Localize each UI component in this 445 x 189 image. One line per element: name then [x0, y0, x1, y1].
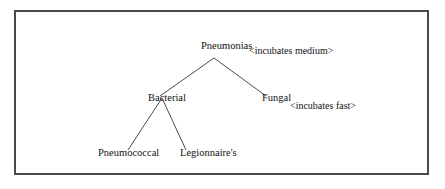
edge-pneumonias-bacterial	[160, 58, 214, 96]
node-pneumococcal: Pneumococcal	[98, 147, 159, 159]
edge-pneumonias-fungal	[214, 58, 266, 96]
edge-bacterial-legionnaires	[162, 98, 186, 150]
edge-bacterial-pneumococcal	[128, 98, 162, 150]
node-bacterial: Bacterial	[148, 92, 186, 104]
annotation-incubates-fast: <incubates fast>	[290, 100, 356, 112]
node-legionnaires: Legionnaire's	[180, 147, 237, 159]
annotation-incubates-medium: <incubates medium>	[249, 45, 333, 57]
tree-edges	[0, 0, 445, 189]
node-fungal: Fungal	[262, 92, 291, 104]
node-pneumonias: Pneumonias	[201, 40, 252, 52]
